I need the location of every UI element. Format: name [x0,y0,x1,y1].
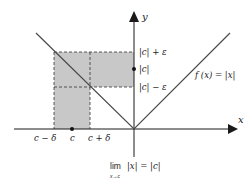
epsilon-band [54,52,134,87]
abs-c-point [132,67,136,71]
limit-body: |x| = |c| [127,161,161,172]
c-point [70,127,74,131]
y-tick-upper: |c| + ε [139,47,167,58]
y-axis-arrow-icon [129,11,139,22]
delta-band [54,87,90,129]
limit-diagram: y x |c| + ε |c| |c| − ε f (x) = |x| c − … [0,0,250,191]
y-tick-middle: |c| [139,64,150,75]
limit-lim: lim [110,161,121,171]
x-tick-right: c + δ [88,133,110,143]
x-axis-label: x [238,114,244,125]
x-tick-center: c [70,133,75,143]
y-axis-label: y [141,11,148,22]
function-label: f (x) = |x| [194,70,235,81]
y-tick-lower: |c| − ε [139,82,167,93]
limit-subscript: x→c [109,173,121,179]
x-axis-arrow-icon [228,124,238,134]
x-tick-left: c − δ [34,133,56,143]
